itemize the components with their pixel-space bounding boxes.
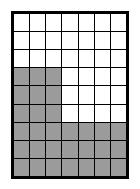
grid-cell-filled[interactable] [110,140,126,158]
grid-cell-filled[interactable] [14,104,30,122]
grid-cell-empty[interactable] [62,32,78,50]
grid-cell-empty[interactable] [94,104,110,122]
grid-cell-empty[interactable] [110,50,126,68]
grid-cell-empty[interactable] [30,50,46,68]
grid-cell-filled[interactable] [94,122,110,140]
grid-cell-empty[interactable] [94,32,110,50]
grid-cell-filled[interactable] [94,140,110,158]
grid-cell-filled[interactable] [62,140,78,158]
grid-cell-filled[interactable] [14,140,30,158]
grid-cell-empty[interactable] [14,32,30,50]
grid-cell-filled[interactable] [110,158,126,176]
grid-cell-empty[interactable] [78,68,94,86]
grid-cell-filled[interactable] [62,158,78,176]
grid-cell-empty[interactable] [14,50,30,68]
grid-row [14,140,127,158]
grid-cell-filled[interactable] [46,86,62,104]
grid-cell-selected[interactable] [62,68,78,86]
grid-cell-filled[interactable] [14,122,30,140]
grid-cell-empty[interactable] [78,14,94,32]
grid-cell-filled[interactable] [30,86,46,104]
grid-cell-empty[interactable] [62,14,78,32]
grid-cell-filled[interactable] [14,86,30,104]
grid-row [14,32,127,50]
grid-cell-empty[interactable] [110,104,126,122]
grid-cell-filled[interactable] [94,158,110,176]
grid-cell-empty[interactable] [110,14,126,32]
grid-cell-empty[interactable] [46,32,62,50]
grid-row [14,50,127,68]
grid-cell-filled[interactable] [78,122,94,140]
grid-cell-filled[interactable] [46,140,62,158]
grid-cell-empty[interactable] [110,86,126,104]
grid-cell-empty[interactable] [30,32,46,50]
grid-cell-filled[interactable] [30,122,46,140]
grid-cell-filled[interactable] [14,158,30,176]
grid-row [14,68,127,86]
grid-cell-filled[interactable] [110,122,126,140]
grid-row [14,158,127,176]
grid-cell-empty[interactable] [46,50,62,68]
grid-cell-empty[interactable] [94,68,110,86]
grid-cell-filled[interactable] [78,140,94,158]
grid-cell-filled[interactable] [78,158,94,176]
grid-cell-selected[interactable] [62,86,78,104]
grid-cell-empty[interactable] [78,50,94,68]
grid-cell-empty[interactable] [78,32,94,50]
grid-cell-filled[interactable] [30,140,46,158]
grid-cell-empty[interactable] [78,86,94,104]
grid-cell-empty[interactable] [62,50,78,68]
grid-row [14,14,127,32]
grid-cell-empty[interactable] [94,50,110,68]
grid-cell-filled[interactable] [46,122,62,140]
grid-cell-filled[interactable] [14,68,30,86]
grid-cell-empty[interactable] [30,14,46,32]
grid-cell-empty[interactable] [110,68,126,86]
grid-cell-filled[interactable] [30,68,46,86]
grid-cell-filled[interactable] [30,104,46,122]
grid-cell-empty[interactable] [78,104,94,122]
grid-cell-empty[interactable] [110,32,126,50]
grid-row [14,86,127,104]
grid-cell-empty[interactable] [94,14,110,32]
grid-cell-empty[interactable] [94,86,110,104]
grid-figure [11,11,129,179]
grid-cell-selected[interactable] [62,104,78,122]
grid-cell-empty[interactable] [46,14,62,32]
grid-row [14,104,127,122]
grid-cell-filled[interactable] [46,104,62,122]
grid-body [14,14,127,177]
grid-cell-filled[interactable] [46,68,62,86]
grid-cell-filled[interactable] [46,158,62,176]
grid-cell-filled[interactable] [62,122,78,140]
grid-cell-filled[interactable] [30,158,46,176]
grid-table [13,13,127,177]
grid-row [14,122,127,140]
grid-cell-empty[interactable] [14,14,30,32]
